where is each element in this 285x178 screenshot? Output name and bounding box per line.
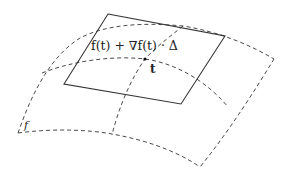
point-t-marker [143,57,146,60]
tangent-plane-diagram: f(t) + ∇f(t) · Δ t f [0,0,285,178]
surface-right-edge [200,59,274,167]
surface-mid-horizontal [42,58,228,107]
surface-bottom-edge [18,130,200,167]
tangent-plane-label: f(t) + ∇f(t) · Δ [91,38,178,53]
point-t-label: t [150,62,156,76]
surface-f-label: f [23,119,30,132]
